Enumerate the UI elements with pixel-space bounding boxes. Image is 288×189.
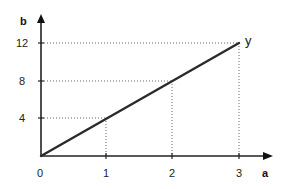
y-tick-8: 8 bbox=[19, 75, 25, 87]
y-tick-12: 12 bbox=[16, 37, 28, 49]
series-label-y: y bbox=[245, 33, 252, 48]
x-axis-label: a bbox=[262, 167, 269, 179]
x-tick-3: 3 bbox=[236, 167, 242, 179]
series-line-y bbox=[41, 43, 239, 156]
x-tick-1: 1 bbox=[103, 167, 109, 179]
x-axis-arrow-icon bbox=[263, 152, 273, 160]
line-chart: b a 12 8 4 0 1 2 3 y bbox=[0, 0, 288, 189]
y-tick-4: 4 bbox=[19, 112, 25, 124]
y-axis-label: b bbox=[20, 15, 27, 27]
x-tick-2: 2 bbox=[169, 167, 175, 179]
x-tick-0: 0 bbox=[37, 167, 43, 179]
y-axis-arrow-icon bbox=[37, 14, 45, 23]
